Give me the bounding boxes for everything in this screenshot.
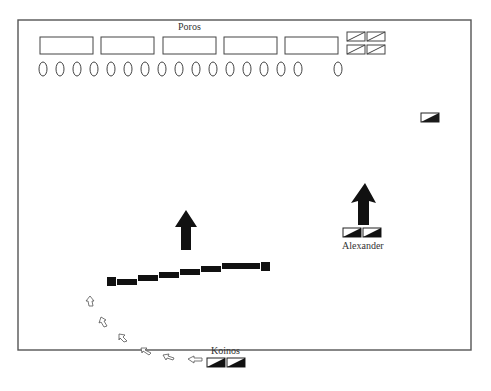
poros-block (163, 37, 216, 54)
poros-cavalry (347, 32, 385, 54)
poros-infantry-line (39, 62, 342, 76)
battle-diagram (0, 0, 491, 391)
poros-block (224, 37, 277, 54)
koinos-label: Koinos (211, 345, 240, 356)
poros-label: Poros (178, 21, 201, 32)
cavalry-unit-right (421, 113, 439, 122)
koinos-cavalry (207, 358, 245, 367)
macedonian-infantry-line (107, 262, 270, 286)
koinos-path (86, 296, 202, 363)
poros-block (40, 37, 93, 54)
alexander-advance-arrow (351, 183, 376, 225)
alexander-label: Alexander (342, 240, 384, 251)
poros-elephant-line (40, 37, 338, 54)
poros-block (285, 37, 338, 54)
alexander-cavalry (343, 228, 381, 237)
poros-block (101, 37, 154, 54)
phalanx-advance-arrow (175, 210, 197, 250)
